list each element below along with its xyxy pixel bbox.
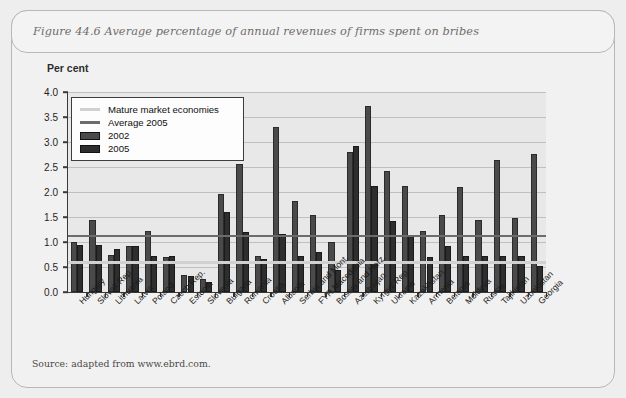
source-note: Source: adapted from www.ebrd.com. [32,358,211,369]
chart-plot-wrapper: 0.00.51.01.52.02.53.03.54.0 HungarySlova… [0,0,626,398]
y-axis-tick-mark [63,191,68,193]
y-axis-tick-label: 2.0 [44,187,58,198]
legend-item-label: Average 2005 [108,116,168,129]
y-axis-tick-label: 1.5 [44,212,58,223]
reference-line-average-2005 [68,235,546,237]
gridline [68,192,546,193]
y-axis-tick-label: 0.5 [44,262,58,273]
bar [77,245,83,293]
legend-line-icon [79,103,101,116]
legend-item[interactable]: Mature market economies [79,103,234,116]
reference-line-mature-market-economies [68,261,546,264]
y-axis-tick-mark [63,291,68,293]
y-axis-tick-mark [63,116,68,118]
legend-item[interactable]: Average 2005 [79,116,234,129]
y-axis-tick-mark [63,216,68,218]
y-axis-tick-label: 1.0 [44,237,58,248]
legend-item-label: 2002 [108,129,129,142]
legend-item[interactable]: 2002 [79,129,234,142]
y-axis-tick-label: 0.0 [44,287,58,298]
y-axis-tick-mark [63,91,68,93]
y-axis-tick-label: 2.5 [44,162,58,173]
y-axis-tick-label: 4.0 [44,87,58,98]
y-axis-tick-label: 3.5 [44,112,58,123]
y-axis-tick-label: 3.0 [44,137,58,148]
chart-legend: Mature market economiesAverage 200520022… [71,97,244,161]
legend-swatch-icon [79,142,101,155]
gridline [68,242,546,243]
legend-swatch-icon [79,129,101,142]
y-axis-tick-mark [63,166,68,168]
y-axis-tick-mark [63,266,68,268]
legend-line-icon [79,116,101,129]
gridline [68,92,546,93]
gridline [68,267,546,268]
legend-item[interactable]: 2005 [79,142,234,155]
legend-item-label: Mature market economies [108,103,219,116]
y-axis-tick-mark [63,241,68,243]
y-axis-tick-mark [63,141,68,143]
gridline [68,167,546,168]
gridline [68,217,546,218]
legend-item-label: 2005 [108,142,129,155]
